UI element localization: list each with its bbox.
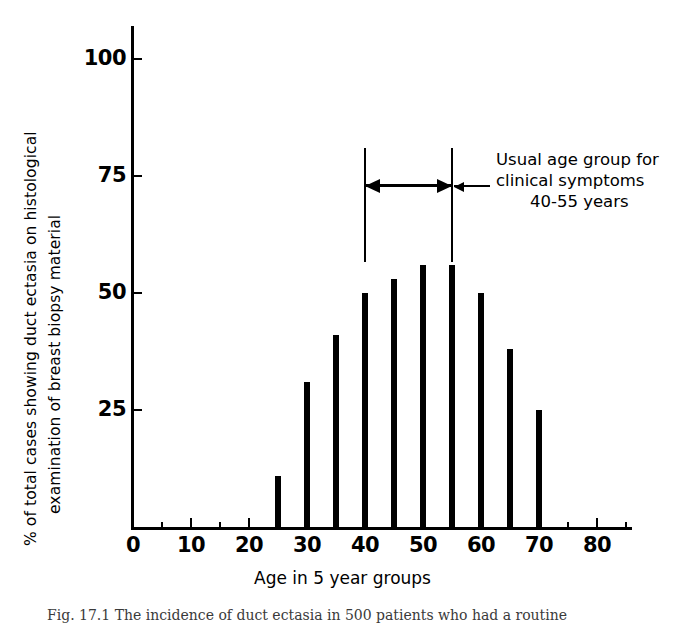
y-axis-label-line1: % of total cases showing duct ectasia on…	[22, 131, 40, 546]
y-tick-label-100: 100	[62, 48, 126, 69]
x-axis-line	[133, 527, 632, 530]
y-axis-label-line2: examination of breast biopsy material	[46, 215, 64, 514]
x-tick-label-10: 10	[169, 535, 213, 556]
bar-age-25	[275, 476, 281, 527]
x-tick-5	[161, 522, 163, 529]
x-tick-label-40: 40	[343, 535, 387, 556]
x-tick-label-20: 20	[227, 535, 271, 556]
x-tick-10	[190, 518, 192, 529]
y-axis-line	[131, 26, 134, 530]
bar-age-60	[478, 293, 484, 527]
annotation-text-block: Usual age group for clinical symptoms 40…	[496, 149, 659, 212]
y-tick-label-50: 50	[62, 282, 126, 303]
x-tick-20	[248, 518, 250, 529]
annotation-marker-line-start	[364, 148, 366, 262]
x-tick-label-80: 80	[575, 535, 619, 556]
bar-age-35	[333, 335, 339, 527]
x-tick-80	[596, 518, 598, 529]
bar-age-55	[449, 265, 455, 527]
y-tick-100	[133, 58, 142, 60]
bar-age-50	[420, 265, 426, 527]
x-tick-label-60: 60	[459, 535, 503, 556]
figure-caption: Fig. 17.1 The incidence of duct ectasia …	[47, 607, 667, 626]
x-tick-85	[625, 522, 627, 529]
x-tick-75	[567, 522, 569, 529]
annotation-line-3: 40-55 years	[496, 191, 659, 212]
x-tick-15	[219, 522, 221, 529]
y-tick-label-75: 75	[62, 165, 126, 186]
bar-age-45	[391, 279, 397, 527]
annotation-arrow-head-left	[365, 179, 380, 193]
annotation-pointer-head	[454, 182, 464, 192]
y-tick-label-25: 25	[62, 399, 126, 420]
bar-age-70	[536, 410, 542, 527]
x-tick-label-30: 30	[285, 535, 329, 556]
x-tick-label-50: 50	[401, 535, 445, 556]
y-tick-75	[133, 175, 142, 177]
y-tick-25	[133, 409, 142, 411]
x-tick-label-0: 0	[111, 535, 155, 556]
bar-age-30	[304, 382, 310, 527]
annotation-line-1: Usual age group for	[496, 149, 659, 170]
bar-age-65	[507, 349, 513, 527]
bar-age-40	[362, 293, 368, 527]
annotation-line-2: clinical symptoms	[496, 170, 659, 191]
annotation-marker-line-end	[451, 148, 453, 262]
annotation-arrow-head-right	[437, 179, 452, 193]
x-tick-label-70: 70	[517, 535, 561, 556]
x-axis-title: Age in 5 year groups	[0, 568, 685, 588]
chart-figure: % of total cases showing duct ectasia on…	[0, 0, 685, 626]
y-tick-50	[133, 292, 142, 294]
x-tick-0	[132, 518, 134, 529]
